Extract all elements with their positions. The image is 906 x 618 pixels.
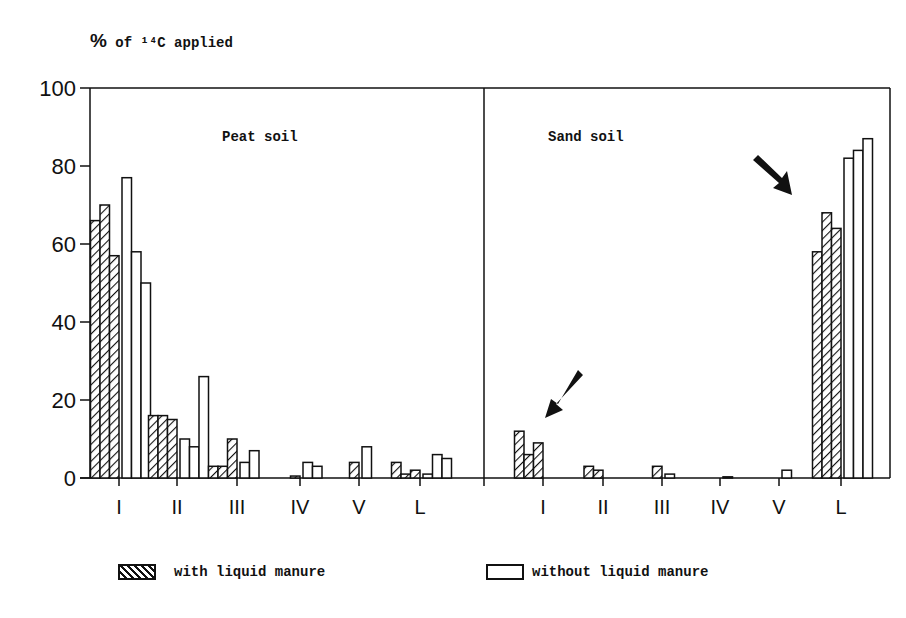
- bar-without-manure: [122, 178, 132, 478]
- legend-item-without: without liquid manure: [486, 564, 708, 580]
- legend-label-without: without liquid manure: [532, 564, 708, 580]
- bar-with-manure: [91, 221, 101, 478]
- bar-without-manure: [362, 447, 372, 478]
- legend-label-with: with liquid manure: [174, 564, 325, 580]
- bar-without-manure: [723, 477, 733, 478]
- bar-without-manure: [844, 158, 854, 478]
- svg-text:V: V: [352, 496, 366, 518]
- bar-with-manure: [392, 462, 402, 478]
- svg-text:60: 60: [52, 232, 76, 257]
- svg-text:II: II: [597, 496, 608, 518]
- bar-with-manure: [401, 474, 411, 478]
- svg-text:100: 100: [39, 76, 76, 101]
- annotation-arrows: [545, 155, 792, 418]
- svg-text:0: 0: [64, 466, 76, 491]
- arrow-icon: [753, 155, 792, 195]
- bar-without-manure: [250, 451, 260, 478]
- open-swatch-icon: [486, 564, 524, 580]
- bar-with-manure: [822, 213, 832, 478]
- svg-text:80: 80: [52, 154, 76, 179]
- bar-without-manure: [240, 462, 250, 478]
- svg-text:III: III: [229, 496, 246, 518]
- bar-without-manure: [863, 139, 873, 478]
- svg-text:IV: IV: [291, 496, 311, 518]
- bar-without-manure: [303, 462, 313, 478]
- svg-text:L: L: [835, 496, 846, 518]
- svg-text:40: 40: [52, 310, 76, 335]
- bar-without-manure: [190, 447, 200, 478]
- bar-with-manure: [832, 228, 842, 478]
- bar-without-manure: [854, 150, 864, 478]
- bar-with-manure: [158, 416, 168, 478]
- bar-with-manure: [594, 470, 604, 478]
- bar-with-manure: [411, 470, 421, 478]
- bar-without-manure: [132, 252, 142, 478]
- bar-without-manure: [180, 439, 190, 478]
- legend-item-with: with liquid manure: [118, 564, 325, 580]
- bar-with-manure: [168, 420, 178, 479]
- bar-without-manure: [313, 466, 323, 478]
- bar-with-manure: [584, 466, 594, 478]
- bar-with-manure: [653, 466, 663, 478]
- svg-text:IV: IV: [711, 496, 731, 518]
- bar-without-manure: [665, 474, 675, 478]
- bar-without-manure: [782, 470, 792, 478]
- hatched-swatch-icon: [118, 564, 156, 580]
- bar-with-manure: [228, 439, 238, 478]
- bar-with-manure: [515, 431, 525, 478]
- bar-with-manure: [209, 466, 219, 478]
- bar-with-manure: [813, 252, 823, 478]
- panel-label-sand: Sand soil: [548, 129, 624, 145]
- svg-text:L: L: [414, 496, 425, 518]
- bar-with-manure: [291, 476, 301, 478]
- svg-text:V: V: [772, 496, 786, 518]
- bar-with-manure: [110, 256, 120, 478]
- bar-with-manure: [100, 205, 110, 478]
- bars: [91, 139, 873, 478]
- bar-with-manure: [524, 455, 534, 478]
- bar-chart: 020406080100IIIIIIIVVLIIIIIIIVVL: [0, 0, 906, 618]
- panel-label-peat: Peat soil: [222, 129, 298, 145]
- arrow-icon: [545, 370, 583, 418]
- bar-without-manure: [433, 455, 443, 478]
- bar-with-manure: [350, 462, 360, 478]
- bar-with-manure: [218, 466, 228, 478]
- bar-without-manure: [199, 377, 209, 478]
- svg-text:20: 20: [52, 388, 76, 413]
- bar-without-manure: [423, 474, 433, 478]
- svg-text:I: I: [116, 496, 122, 518]
- svg-text:I: I: [540, 496, 546, 518]
- bar-without-manure: [442, 459, 452, 479]
- bar-with-manure: [149, 416, 159, 478]
- svg-text:III: III: [654, 496, 671, 518]
- bar-with-manure: [534, 443, 544, 478]
- svg-text:II: II: [171, 496, 182, 518]
